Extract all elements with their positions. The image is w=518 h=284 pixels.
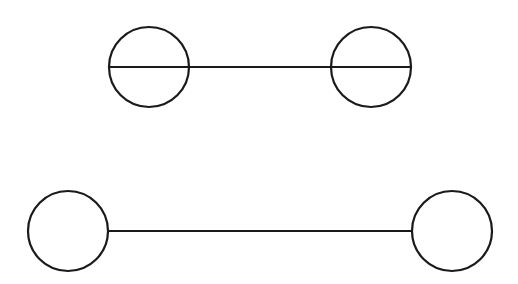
top-pair [109,27,411,107]
bottom-right-circle [412,191,492,271]
diagram-canvas [0,0,518,284]
bottom-left-circle [28,191,108,271]
bottom-pair [28,191,492,271]
